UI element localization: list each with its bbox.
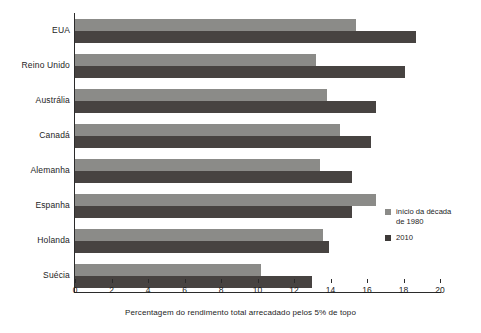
x-axis-title: Percentagem do rendimento total arrecada… bbox=[0, 308, 481, 317]
bar bbox=[75, 241, 329, 253]
x-tick bbox=[294, 279, 295, 283]
category-label-3: Austrália bbox=[0, 95, 70, 105]
x-tick-label-18: 18 bbox=[394, 285, 414, 295]
x-tick-label-16: 16 bbox=[357, 285, 377, 295]
x-tick-label-4: 4 bbox=[138, 285, 158, 295]
bar bbox=[75, 66, 405, 78]
category-label-1: EUA bbox=[0, 25, 70, 35]
x-tick-label-8: 8 bbox=[211, 285, 231, 295]
plot-area bbox=[74, 13, 440, 292]
x-tick bbox=[367, 279, 368, 283]
category-label-4: Canadá bbox=[0, 130, 70, 140]
bar bbox=[75, 19, 356, 31]
legend-swatch-icon bbox=[385, 235, 391, 241]
bar bbox=[75, 31, 416, 43]
category-label-7: Holanda bbox=[0, 235, 70, 245]
x-tick-label-12: 12 bbox=[284, 285, 304, 295]
bar bbox=[75, 206, 352, 218]
bar bbox=[75, 136, 371, 148]
x-tick bbox=[440, 279, 441, 283]
bar-group bbox=[75, 159, 440, 183]
chart-legend: início da década de 19802010 bbox=[385, 207, 481, 250]
x-tick-label-14: 14 bbox=[321, 285, 341, 295]
x-tick bbox=[258, 279, 259, 283]
category-label-8: Suécia bbox=[0, 270, 70, 280]
category-label-2: Reino Unido bbox=[0, 60, 70, 70]
legend-label: início da década de 1980 bbox=[396, 207, 481, 226]
x-tick-label-6: 6 bbox=[175, 285, 195, 295]
bar bbox=[75, 54, 316, 66]
bar bbox=[75, 229, 323, 241]
x-tick-label-0: 0 bbox=[65, 285, 85, 295]
bar-group bbox=[75, 124, 440, 148]
bar bbox=[75, 159, 320, 171]
category-label-6: Espanha bbox=[0, 200, 70, 210]
bar-group bbox=[75, 89, 440, 113]
bar-group bbox=[75, 54, 440, 78]
legend-item-2: 2010 bbox=[385, 233, 481, 243]
x-tick bbox=[112, 279, 113, 283]
bar bbox=[75, 89, 327, 101]
legend-label: 2010 bbox=[396, 233, 481, 243]
bar-chart: EUAReino UnidoAustráliaCanadáAlemanhaEsp… bbox=[0, 0, 481, 333]
bar bbox=[75, 101, 376, 113]
x-tick bbox=[221, 279, 222, 283]
x-tick bbox=[185, 279, 186, 283]
legend-item-1: início da década de 1980 bbox=[385, 207, 481, 226]
bar bbox=[75, 264, 261, 276]
bar-group bbox=[75, 19, 440, 43]
bar bbox=[75, 171, 352, 183]
x-tick bbox=[331, 279, 332, 283]
x-tick bbox=[148, 279, 149, 283]
x-tick-label-10: 10 bbox=[248, 285, 268, 295]
category-label-5: Alemanha bbox=[0, 165, 70, 175]
bar-group bbox=[75, 264, 440, 288]
x-tick bbox=[404, 279, 405, 283]
category-axis-labels: EUAReino UnidoAustráliaCanadáAlemanhaEsp… bbox=[0, 13, 70, 292]
bar bbox=[75, 194, 376, 206]
x-tick bbox=[75, 279, 76, 283]
bar bbox=[75, 124, 340, 136]
x-tick-label-20: 20 bbox=[430, 285, 450, 295]
x-tick-label-2: 2 bbox=[102, 285, 122, 295]
legend-swatch-icon bbox=[385, 209, 391, 215]
